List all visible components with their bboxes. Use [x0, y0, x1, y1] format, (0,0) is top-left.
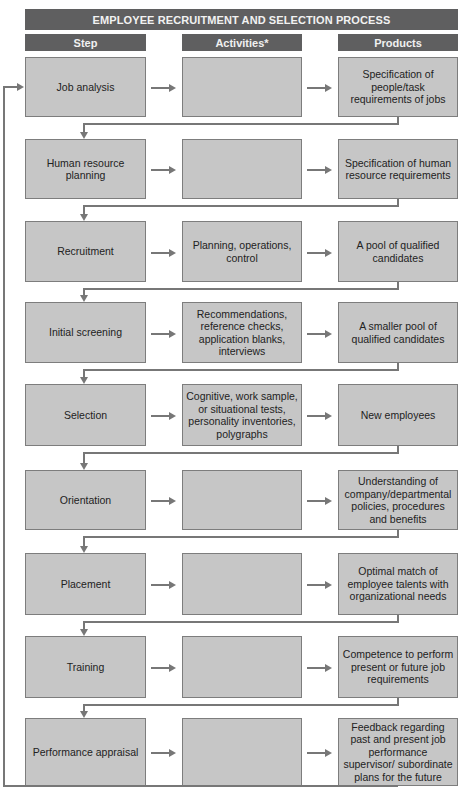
- arrow-right-icon: [151, 87, 174, 89]
- arrow-down-icon: [80, 295, 88, 302]
- activities-box: [182, 139, 302, 199]
- step-box: Performance appraisal: [25, 718, 146, 786]
- activities-box: Recommendations, reference checks, appli…: [182, 302, 302, 363]
- connector-line: [83, 621, 399, 623]
- arrow-right-icon: [151, 415, 174, 417]
- arrow-right-icon: [307, 667, 330, 669]
- step-box: Initial screening: [25, 302, 146, 363]
- connector-line: [83, 123, 399, 125]
- arrow-right-icon: [307, 415, 330, 417]
- step-box: Selection: [25, 384, 146, 446]
- column-header-products: Products: [338, 34, 458, 51]
- products-box: Specification of human resource requirem…: [338, 139, 458, 199]
- step-box: Placement: [25, 553, 146, 615]
- products-box: Optimal match of employee talents with o…: [338, 553, 458, 615]
- arrow-right-icon: [307, 584, 330, 586]
- step-box: Training: [25, 636, 146, 698]
- step-box: Orientation: [25, 470, 146, 530]
- arrow-down-icon: [80, 629, 88, 636]
- feedback-loop-left: [3, 86, 5, 787]
- activities-box: [182, 470, 302, 530]
- feedback-loop-bottom: [3, 785, 398, 787]
- connector-line: [83, 452, 399, 454]
- activities-box: [182, 636, 302, 698]
- products-box: A smaller pool of qualified candidates: [338, 302, 458, 363]
- arrow-right-icon: [307, 752, 330, 754]
- arrow-right-icon: [151, 252, 174, 254]
- activities-box: Cognitive, work sample, or situational t…: [182, 384, 302, 446]
- arrow-down-icon: [80, 132, 88, 139]
- connector-line: [83, 288, 399, 290]
- arrow-right-icon: [151, 667, 174, 669]
- connector-line: [83, 704, 399, 706]
- arrow-right-icon: [307, 169, 330, 171]
- arrow-right-icon: [151, 333, 174, 335]
- diagram-title: EMPLOYEE RECRUITMENT AND SELECTION PROCE…: [25, 9, 458, 30]
- arrow-down-icon: [80, 377, 88, 384]
- products-box: Feedback regarding past and present job …: [338, 718, 458, 786]
- arrow-down-icon: [80, 711, 88, 718]
- arrow-down-icon: [80, 463, 88, 470]
- products-box: Specification of people/task requirement…: [338, 57, 458, 117]
- arrow-right-icon: [307, 87, 330, 89]
- connector-line: [83, 536, 399, 538]
- activities-box: [182, 553, 302, 615]
- products-box: Understanding of company/departmental po…: [338, 470, 458, 530]
- arrow-down-icon: [80, 214, 88, 221]
- step-box: Recruitment: [25, 221, 146, 282]
- products-box: A pool of qualified candidates: [338, 221, 458, 282]
- arrow-right-icon: [151, 500, 174, 502]
- products-box: Competence to perform present or future …: [338, 636, 458, 698]
- step-box: Job analysis: [25, 57, 146, 117]
- column-header-step: Step: [25, 34, 146, 51]
- connector-line: [83, 369, 399, 371]
- activities-box: [182, 718, 302, 786]
- activities-box: [182, 57, 302, 117]
- column-header-activities: Activities*: [182, 34, 302, 51]
- feedback-loop-top: [3, 86, 17, 88]
- activities-box: Planning, operations, control: [182, 221, 302, 282]
- arrow-down-icon: [80, 546, 88, 553]
- arrow-right-icon: [151, 752, 174, 754]
- arrow-right-icon: [151, 584, 174, 586]
- products-box: New employees: [338, 384, 458, 446]
- arrow-right-icon: [307, 333, 330, 335]
- arrow-right-icon: [307, 252, 330, 254]
- feedback-arrow-head-icon: [17, 83, 24, 91]
- connector-line: [83, 205, 399, 207]
- step-box: Human resource planning: [25, 139, 146, 199]
- arrow-right-icon: [151, 169, 174, 171]
- arrow-right-icon: [307, 500, 330, 502]
